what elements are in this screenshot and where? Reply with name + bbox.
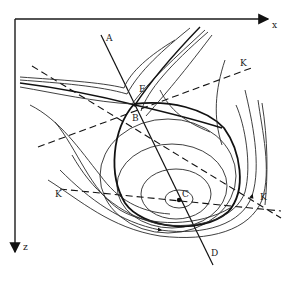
points: E B C	[132, 84, 189, 202]
z-axis-label: z	[23, 242, 28, 252]
phase-portrait-diagram: x z A D K K K	[0, 0, 295, 281]
point-C	[177, 198, 181, 202]
label-D: D	[211, 248, 218, 258]
point-B	[133, 103, 137, 107]
x-axis-label: x	[272, 20, 277, 30]
label-A: A	[105, 33, 113, 43]
label-C: C	[182, 189, 189, 199]
label-E: E	[139, 84, 146, 94]
label-K-lower-left: K	[55, 189, 62, 199]
label-K-upper: K	[240, 58, 247, 68]
label-B: B	[132, 113, 139, 123]
